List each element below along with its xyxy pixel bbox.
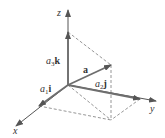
y-axis-label: y (149, 103, 155, 114)
x-axis-label: x (12, 125, 18, 136)
dashed-box (39, 32, 140, 120)
vector-a-label: a (83, 64, 88, 75)
a3k-label: a3k (46, 55, 61, 68)
a1i-label: a1i (40, 83, 52, 96)
z-axis-label: z (56, 7, 61, 18)
vector-diagram: z x y a a3k a1i a2j (0, 0, 165, 138)
a2j-label: a2j (95, 78, 107, 91)
